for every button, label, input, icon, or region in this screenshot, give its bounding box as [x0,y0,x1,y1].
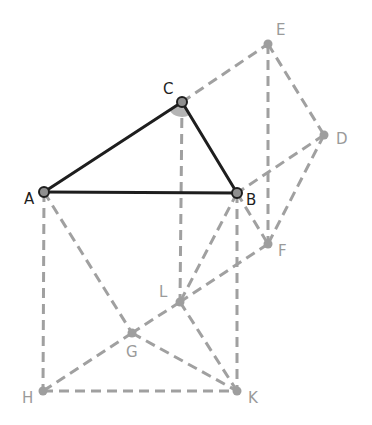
point-labels: ABCDEFGHKL [22,21,348,407]
label-b: B [246,191,256,209]
segment-df [268,135,324,244]
label-h: H [22,389,33,407]
label-d: D [336,130,348,148]
side-cb [182,102,237,193]
segment-db [237,135,324,193]
dashed-construction-lines [43,44,324,391]
point-g-icon [128,329,137,338]
label-g: G [126,343,138,361]
segment-lk [180,302,237,391]
point-c-icon [177,97,187,107]
point-a-icon [39,187,49,197]
segment-ed [268,44,324,135]
label-a: A [24,190,35,208]
point-b-icon [232,188,242,198]
segment-bl [180,193,237,302]
segment-cl [180,102,182,302]
side-ab [44,192,237,193]
segment-ce [182,44,268,102]
label-e: E [276,21,285,39]
side-ac [44,102,182,192]
point-e-icon [264,40,273,49]
point-k-icon [233,387,242,396]
segment-gk [132,333,237,391]
label-f: F [278,242,287,260]
segment-gh [43,333,132,391]
label-k: K [248,389,259,407]
label-l: L [159,283,168,301]
label-c: C [163,80,173,98]
point-f-icon [264,240,273,249]
segment-ag [44,192,132,333]
segment-ah [43,192,44,391]
triangle-abc [44,102,237,193]
point-l-icon [176,298,185,307]
segment-lg [132,302,180,333]
geometry-diagram: ABCDEFGHKL [0,0,372,425]
points [39,40,329,396]
segment-fl [180,244,268,302]
point-h-icon [39,387,48,396]
point-d-icon [320,131,329,140]
